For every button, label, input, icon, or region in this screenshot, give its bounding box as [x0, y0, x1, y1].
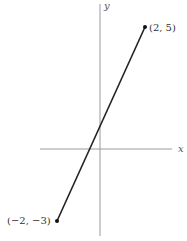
endpoint-lower: [55, 219, 59, 223]
graph-canvas: y x (2, 5) (−2, −3): [0, 0, 187, 241]
lower-point-label: (−2, −3): [7, 215, 51, 226]
line-segment: [57, 27, 145, 221]
upper-point-label: (2, 5): [149, 22, 176, 33]
y-axis-label: y: [103, 0, 110, 11]
endpoint-upper: [143, 25, 147, 29]
x-axis-label: x: [178, 143, 184, 154]
